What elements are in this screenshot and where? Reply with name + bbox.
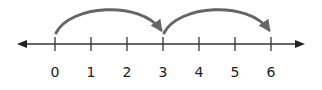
tick-label-4: 4 xyxy=(189,64,209,80)
left-arrow-icon xyxy=(17,40,27,48)
jump-arc-0-to-3 xyxy=(56,10,161,33)
tick-label-6: 6 xyxy=(261,64,281,80)
tick-label-2: 2 xyxy=(117,64,137,80)
tick-label-5: 5 xyxy=(225,64,245,80)
tick-label-0: 0 xyxy=(45,64,65,80)
jump-arc-3-to-6 xyxy=(164,10,269,33)
tick-label-3: 3 xyxy=(153,64,173,80)
right-arrow-icon xyxy=(295,40,305,48)
tick-label-1: 1 xyxy=(81,64,101,80)
